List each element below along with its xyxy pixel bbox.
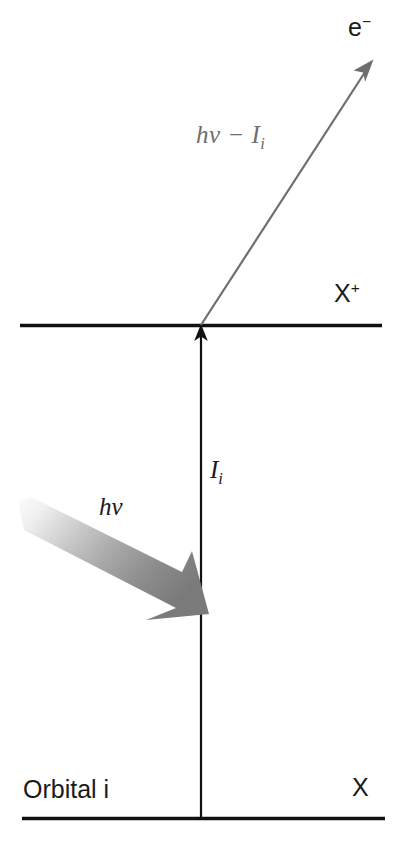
planck-constant-symbol: h [99, 493, 112, 520]
ion-charge-superscript: + [351, 279, 360, 296]
orbital-index-subscript: i [260, 134, 265, 153]
planck-constant-symbol: h [196, 121, 209, 148]
orbital-index-subscript: i [218, 469, 223, 488]
photon-energy-label: hν [99, 494, 123, 519]
electron-charge-superscript: − [362, 13, 371, 30]
ion-state-label: X+ [334, 280, 360, 306]
photoionization-diagram: e− hν − Ii X+ Ii hν X Orbital i [0, 0, 418, 854]
minus-operator: − [221, 121, 252, 148]
orbital-label: Orbital i [23, 777, 109, 802]
ion-state-symbol: X [334, 279, 351, 307]
neutral-state-label: X [352, 775, 369, 800]
frequency-symbol: ν [209, 121, 221, 148]
photoelectron-energy-label: hν − Ii [196, 122, 265, 153]
electron-label: e− [348, 14, 371, 40]
ionization-energy-symbol: I [251, 121, 260, 148]
electron-symbol: e [348, 13, 362, 41]
frequency-symbol: ν [112, 493, 123, 520]
photoelectron-arrow-head [354, 60, 374, 82]
ionization-energy-label: Ii [210, 457, 223, 488]
